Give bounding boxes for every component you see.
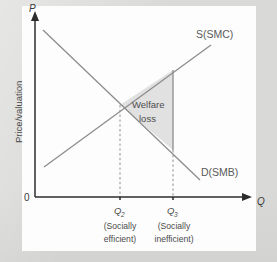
- y-axis-letter: P: [29, 3, 36, 14]
- origin-label: 0: [24, 192, 30, 203]
- welfare-loss-label-line2: loss: [139, 113, 156, 124]
- q2-description-line2: efficient): [104, 234, 136, 244]
- demand-curve-label: D(SMB): [201, 166, 238, 178]
- q3-description-line2: inefficient): [154, 234, 193, 244]
- welfare-loss-region: [120, 70, 173, 150]
- q3-subscript: 3: [174, 211, 178, 218]
- demand-curve: [43, 30, 200, 180]
- q2-description-line1: (Socially: [104, 221, 137, 231]
- figure-page: P Q 0 Price/valuation S(SMC) D(SMB) Welf…: [0, 0, 277, 262]
- supply-curve: [44, 45, 211, 167]
- x-axis-letter: Q: [257, 196, 265, 207]
- q2-subscript: 2: [120, 211, 125, 218]
- welfare-loss-label-line1: Welfare: [132, 99, 165, 110]
- supply-curve-label: S(SMC): [196, 28, 233, 40]
- economics-diagram: P Q 0 Price/valuation S(SMC) D(SMB) Welf…: [0, 0, 277, 262]
- y-axis-title: Price/valuation: [13, 81, 24, 143]
- q3-description-line1: (Socially: [158, 221, 191, 231]
- x-axis-arrow-icon: [242, 193, 252, 201]
